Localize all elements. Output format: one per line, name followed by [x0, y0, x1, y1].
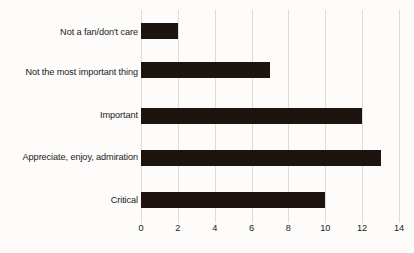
- category-axis-labels: Not a fan/don't care Not the most import…: [0, 10, 138, 220]
- tick-label-6: 6: [249, 222, 254, 234]
- tick-label-14: 14: [394, 222, 404, 234]
- category-label-1: Not the most important thing: [25, 67, 138, 78]
- category-label-2: Important: [100, 110, 138, 121]
- tick-label-12: 12: [357, 222, 367, 234]
- bar-row: [141, 23, 178, 39]
- tick-label-0: 0: [138, 222, 143, 234]
- gridline-14: [399, 10, 400, 220]
- bar-row: [141, 62, 270, 78]
- category-label-0: Not a fan/don't care: [60, 27, 138, 38]
- tick-label-10: 10: [320, 222, 330, 234]
- bar-chart: Not a fan/don't care Not the most import…: [0, 0, 414, 253]
- tick-label-4: 4: [212, 222, 217, 234]
- bar-3: [141, 150, 381, 166]
- bar-1: [141, 62, 270, 78]
- category-label-4: Critical: [111, 195, 138, 206]
- bar-row: [141, 150, 381, 166]
- tick-label-2: 2: [175, 222, 180, 234]
- bar-row: [141, 192, 325, 208]
- plot-area: [141, 10, 399, 220]
- bar-row: [141, 108, 362, 124]
- category-label-3: Appreciate, enjoy, admiration: [23, 152, 138, 163]
- gridline-12: [362, 10, 363, 220]
- bar-4: [141, 192, 325, 208]
- tick-label-8: 8: [286, 222, 291, 234]
- bar-2: [141, 108, 362, 124]
- bar-0: [141, 23, 178, 39]
- value-axis-labels: 0 2 4 6 8 10 12 14: [141, 222, 399, 242]
